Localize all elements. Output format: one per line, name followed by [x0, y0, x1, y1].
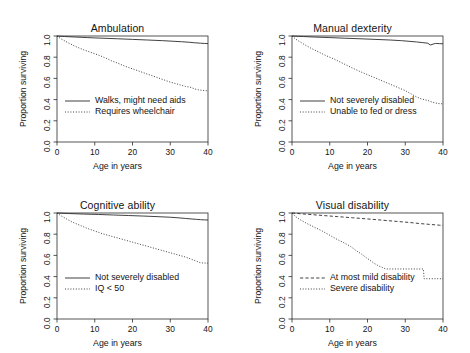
legend-label: IQ < 50 [95, 283, 124, 293]
x-tick-label: 30 [158, 324, 182, 334]
x-tick-label: 30 [393, 147, 417, 157]
series-line [57, 213, 208, 263]
x-tick-label: 10 [318, 324, 342, 334]
legend-label: Not severely disabled [95, 272, 179, 282]
y-tick-label: 0.2 [277, 119, 287, 131]
y-tick-label: 0.4 [42, 98, 52, 110]
y-tick-label: 0.6 [42, 254, 52, 266]
series-line [292, 36, 443, 45]
legend-label: Unable to fed or dress [330, 106, 417, 116]
y-tick-label: 0.8 [277, 233, 287, 245]
y-tick-label: 0.8 [42, 56, 52, 68]
x-axis-label: Age in years [235, 161, 470, 171]
x-tick-label: 30 [393, 324, 417, 334]
series-line [57, 36, 208, 91]
y-axis-label: Proportion surviving [253, 51, 263, 127]
x-tick-label: 0 [45, 147, 69, 157]
x-tick-label: 20 [356, 147, 380, 157]
x-tick-label: 40 [431, 147, 455, 157]
y-axis-label: Proportion surviving [18, 228, 28, 304]
y-tick-label: 0.6 [277, 254, 287, 266]
plot-frame [57, 213, 208, 319]
x-tick-label: 10 [83, 147, 107, 157]
series-line [57, 36, 208, 44]
x-axis-label: Age in years [0, 338, 235, 348]
panel-visual-disability: Visual disability Proportion surviving0.… [235, 177, 470, 353]
x-tick-label: 20 [356, 324, 380, 334]
y-axis-label: Proportion surviving [253, 228, 263, 304]
legend-label: Walks, might need aids [95, 95, 186, 105]
y-tick-label: 0.2 [277, 296, 287, 308]
legend-label: Requires wheelchair [95, 106, 175, 116]
x-tick-label: 0 [280, 147, 304, 157]
y-tick-label: 0.2 [42, 296, 52, 308]
x-tick-label: 0 [280, 324, 304, 334]
y-tick-label: 0.6 [277, 77, 287, 89]
plot-frame [57, 36, 208, 142]
y-tick-label: 0.4 [277, 275, 287, 287]
x-axis-label: Age in years [235, 338, 470, 348]
plot-frame [292, 213, 443, 319]
series-line [292, 213, 443, 279]
legend-label: Severe disability [330, 283, 394, 293]
y-tick-label: 0.2 [42, 119, 52, 131]
y-tick-label: 0.6 [42, 77, 52, 89]
y-tick-label: 1.0 [42, 211, 52, 223]
x-tick-label: 10 [83, 324, 107, 334]
series-line [292, 36, 443, 104]
y-tick-label: 0.8 [42, 233, 52, 245]
x-tick-label: 20 [121, 147, 145, 157]
x-tick-label: 40 [196, 324, 220, 334]
panel-manual-dexterity: Manual dexterity Proportion surviving0.0… [235, 0, 470, 176]
y-tick-label: 1.0 [277, 211, 287, 223]
legend-label: Not severely disabled [330, 95, 414, 105]
x-tick-label: 40 [196, 147, 220, 157]
x-tick-label: 0 [45, 324, 69, 334]
x-axis-label: Age in years [0, 161, 235, 171]
x-tick-label: 10 [318, 147, 342, 157]
x-tick-label: 40 [431, 324, 455, 334]
panel-cognitive-ability: Cognitive ability Proportion surviving0.… [0, 177, 235, 353]
plot-frame [292, 36, 443, 142]
y-tick-label: 1.0 [42, 34, 52, 46]
y-tick-label: 0.4 [42, 275, 52, 287]
y-tick-label: 1.0 [277, 34, 287, 46]
y-tick-label: 0.8 [277, 56, 287, 68]
survival-curves-figure: Ambulation Proportion surviving0.00.20.4… [0, 0, 470, 353]
legend-label: At most mild disability [330, 272, 415, 282]
series-line [292, 213, 443, 225]
x-tick-label: 30 [158, 147, 182, 157]
y-axis-label: Proportion surviving [18, 51, 28, 127]
series-line [57, 213, 208, 220]
x-tick-label: 20 [121, 324, 145, 334]
y-tick-label: 0.4 [277, 98, 287, 110]
panel-ambulation: Ambulation Proportion surviving0.00.20.4… [0, 0, 235, 176]
